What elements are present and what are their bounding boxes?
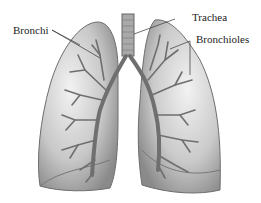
left-lung [38, 22, 118, 191]
lung-diagram: Bronchi Trachea Bronchioles [0, 0, 261, 203]
bronchi-label: Bronchi [13, 25, 48, 36]
bronchioles-label: Bronchioles [196, 34, 249, 45]
trachea-label: Trachea [192, 12, 227, 23]
